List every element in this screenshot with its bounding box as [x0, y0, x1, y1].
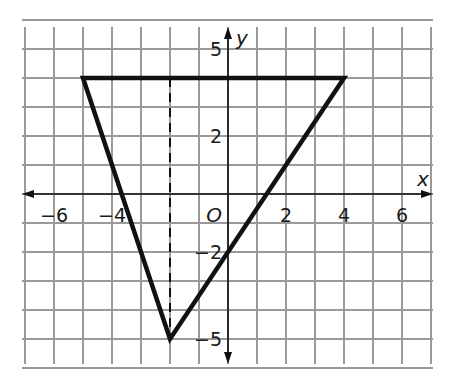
y-tick-label: 2 — [210, 125, 222, 147]
y-axis-up-arrow-icon — [224, 27, 232, 39]
y-tick-label: −5 — [194, 328, 222, 350]
y-axis-down-arrow-icon — [224, 352, 232, 364]
y-tick-label: −2 — [194, 241, 222, 263]
x-tick-label: −6 — [40, 204, 68, 226]
y-axis-label: y — [235, 26, 249, 50]
origin-label: O — [206, 203, 222, 227]
axis-labels: −6−424652−2−5Oxy — [40, 26, 429, 350]
x-axis-label: x — [416, 167, 429, 191]
x-axis-left-arrow-icon — [22, 190, 34, 198]
coordinate-plane: −6−424652−2−5Oxy — [0, 0, 450, 384]
x-tick-label: 2 — [280, 204, 292, 226]
y-tick-label: 5 — [210, 38, 222, 60]
x-tick-label: −4 — [98, 204, 126, 226]
x-tick-label: 4 — [338, 204, 350, 226]
x-tick-label: 6 — [396, 204, 408, 226]
